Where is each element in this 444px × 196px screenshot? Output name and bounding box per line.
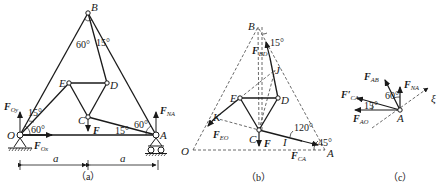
point-label-A: A xyxy=(159,129,167,141)
force-label-FAB: FAB xyxy=(363,71,379,83)
point-label-K: K xyxy=(212,111,221,123)
force-label-FEO: FEO xyxy=(212,129,229,141)
force-label-FOx: FOx xyxy=(33,140,48,152)
angle-label-B-right: 15° xyxy=(96,37,110,48)
dimension-label-left: a xyxy=(53,152,59,164)
force-label-FNA-c: FNA xyxy=(403,79,419,91)
angle-label-I-b: 120° xyxy=(294,122,313,133)
axis-label-xi: ξ xyxy=(431,92,436,105)
joint-A xyxy=(153,132,159,138)
force-label-F-b: F xyxy=(263,138,271,149)
point-label-A-b: A xyxy=(326,147,334,159)
point-label-C: C xyxy=(78,114,86,126)
dimension-line xyxy=(20,160,158,170)
angle-label-upper-c: 60° xyxy=(385,90,399,101)
angle-label-A-lower: 15° xyxy=(115,125,129,136)
point-label-D-b: D xyxy=(280,94,289,106)
angle-label-B-left: 60° xyxy=(76,39,90,50)
point-label-J: J xyxy=(275,64,281,76)
point-label-E-b: E xyxy=(229,92,237,104)
point-label-C-b: C xyxy=(249,133,257,145)
panel-b: B E D C O A K J I 15° 120° 45° FBD FEO F… xyxy=(181,20,334,183)
force-label-FOy: FOy xyxy=(3,101,18,113)
force-label-FNA: FNA xyxy=(159,105,175,117)
caption-c: （c） xyxy=(388,172,412,183)
caption-a: （a） xyxy=(76,171,100,182)
joint-C xyxy=(86,115,90,119)
truss-diagram-figure: B E D C O A 60° 15° 15° 60° 60° 15° FOy … xyxy=(0,0,444,196)
point-label-E: E xyxy=(58,77,66,89)
angle-label-O-lower: 60° xyxy=(31,124,45,135)
angle-label-A-b: 45° xyxy=(318,137,332,148)
joint-E xyxy=(67,81,71,85)
panel-c: A 60° 15° FAB FNA F′CA FAO ξ （c） xyxy=(340,71,436,183)
force-label-F: F xyxy=(92,125,100,136)
angle-label-B-b: 15° xyxy=(270,37,284,48)
point-label-B: B xyxy=(91,1,98,13)
angle-label-lower-c: 15° xyxy=(364,100,378,111)
joint-E-b xyxy=(238,96,242,100)
point-label-D: D xyxy=(109,79,118,91)
force-label-FAO: FAO xyxy=(352,113,369,125)
joint-O xyxy=(17,132,23,138)
joint-B xyxy=(86,11,90,15)
force-label-FBD: FBD xyxy=(251,45,268,57)
caption-b: （b） xyxy=(246,172,271,183)
point-label-B-b: B xyxy=(248,20,255,32)
joint-C-b xyxy=(257,128,261,132)
angle-label-A-upper: 60° xyxy=(134,119,148,130)
panel-a: B E D C O A 60° 15° 15° 60° 60° 15° FOy … xyxy=(3,1,175,182)
point-label-O: O xyxy=(7,129,15,141)
angle-label-O-upper: 15° xyxy=(28,107,42,118)
point-label-A-c: A xyxy=(396,112,404,124)
force-label-FCA-prime: F′CA xyxy=(340,89,359,101)
joint-D-b xyxy=(276,96,280,100)
joint-D xyxy=(105,81,109,85)
point-label-O-b: O xyxy=(181,145,189,157)
force-label-FCA: FCA xyxy=(290,150,306,162)
dimension-label-right: a xyxy=(120,152,126,164)
